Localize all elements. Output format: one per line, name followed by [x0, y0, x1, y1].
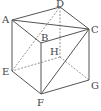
edge-ac — [12, 20, 89, 29]
edge-ef — [12, 71, 41, 94]
edge-he — [12, 57, 60, 71]
edge-ab — [12, 20, 41, 43]
vertex-label-h: H — [50, 47, 59, 57]
vertex-label-b: B — [41, 33, 48, 43]
vertex-label-e: E — [2, 67, 9, 77]
vertex-label-d: D — [56, 0, 64, 9]
hidden-edges — [12, 7, 89, 80]
edge-ad — [12, 7, 60, 20]
vertex-label-f: F — [37, 98, 44, 108]
cube-diagram: A B C D E F G H — [0, 0, 101, 111]
vertex-label-g: G — [91, 81, 99, 91]
edge-hg — [60, 57, 89, 80]
vertex-label-c: C — [91, 25, 99, 35]
edge-fg — [41, 80, 89, 94]
vertex-label-a: A — [2, 15, 9, 25]
